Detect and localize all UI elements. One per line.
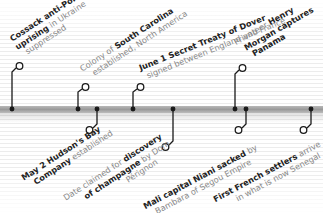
tick-dot-icon <box>95 107 99 111</box>
connector-cossack <box>10 63 23 111</box>
tick-dot-icon <box>131 107 135 111</box>
tick-dot-icon <box>76 107 80 111</box>
tick-dot-icon <box>233 107 237 111</box>
tick-dot-icon <box>309 107 313 111</box>
connector-niani <box>235 107 248 133</box>
connector-carolina <box>76 84 89 111</box>
tick-dot-icon <box>10 107 14 111</box>
connector-morgan <box>233 65 246 111</box>
connector-dover <box>131 84 144 111</box>
connector-senegal <box>300 107 313 133</box>
tick-dot-icon <box>244 107 248 111</box>
tick-dot-icon <box>171 107 175 111</box>
